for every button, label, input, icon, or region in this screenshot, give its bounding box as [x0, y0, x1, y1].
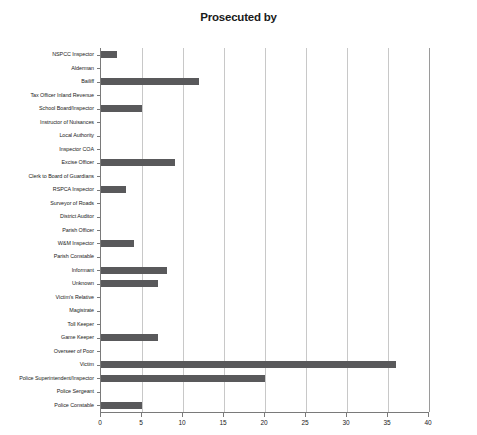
- y-axis-label: Victim: [80, 361, 94, 368]
- bar-row[interactable]: [101, 375, 429, 382]
- bar[interactable]: [101, 186, 126, 193]
- x-axis-label-40: 40: [424, 419, 431, 426]
- bar-row[interactable]: [101, 334, 429, 341]
- bar[interactable]: [101, 51, 117, 58]
- bar-row[interactable]: [101, 307, 429, 314]
- bar-row[interactable]: [101, 361, 429, 368]
- bar-row[interactable]: [101, 200, 429, 207]
- bar-row[interactable]: [101, 119, 429, 126]
- bar-row[interactable]: [101, 253, 429, 260]
- y-axis-label: Alderman: [71, 65, 94, 72]
- x-axis-tick-10: [182, 413, 183, 417]
- y-axis-tick: [97, 68, 100, 69]
- y-axis-tick: [97, 217, 100, 218]
- y-axis-tick: [97, 176, 100, 177]
- y-axis-tick: [97, 365, 100, 366]
- y-axis-tick: [97, 392, 100, 393]
- y-axis-tick: [97, 243, 100, 244]
- x-axis-tick-0: [100, 413, 101, 417]
- y-axis-tick: [97, 324, 100, 325]
- y-axis-label: NSPCC Inspector: [52, 51, 94, 58]
- bar-row[interactable]: [101, 105, 429, 112]
- y-axis-tick: [97, 55, 100, 56]
- bar[interactable]: [101, 361, 396, 368]
- bar-row[interactable]: [101, 240, 429, 247]
- y-axis-tick: [97, 136, 100, 137]
- y-axis-label: School Board/Inspector: [39, 105, 94, 112]
- x-axis-tick-20: [264, 413, 265, 417]
- bar-row[interactable]: [101, 186, 429, 193]
- y-axis-tick: [97, 405, 100, 406]
- bar[interactable]: [101, 78, 199, 85]
- y-axis-label: Game Keeper: [61, 334, 94, 341]
- y-axis-tick: [97, 257, 100, 258]
- y-axis-label: Clerk to Board of Guardians: [29, 173, 94, 180]
- y-axis-tick: [97, 230, 100, 231]
- bar[interactable]: [101, 375, 265, 382]
- bar-row[interactable]: [101, 159, 429, 166]
- y-axis-tick: [97, 190, 100, 191]
- y-axis-label: Overseer of Poor: [54, 348, 94, 355]
- y-axis-label: W&M Inspector: [58, 240, 94, 247]
- bar-row[interactable]: [101, 402, 429, 409]
- y-axis-label: Unknown: [72, 280, 94, 287]
- bar-row[interactable]: [101, 65, 429, 72]
- y-axis-tick: [97, 95, 100, 96]
- y-axis-label: Police Superintendent/Inspector: [19, 375, 94, 382]
- y-axis-label: Parish Officer: [62, 227, 94, 234]
- bar[interactable]: [101, 105, 142, 112]
- bar-chart: Prosecuted by NSPCC InspectorAldermanBai…: [0, 0, 477, 435]
- y-axis-tick: [97, 82, 100, 83]
- y-axis-tick: [97, 311, 100, 312]
- x-axis-label-5: 5: [139, 419, 143, 426]
- bar-row[interactable]: [101, 267, 429, 274]
- x-axis-label-15: 15: [219, 419, 226, 426]
- x-axis-label-35: 35: [383, 419, 390, 426]
- bar[interactable]: [101, 240, 134, 247]
- bar-row[interactable]: [101, 388, 429, 395]
- bar-row[interactable]: [101, 132, 429, 139]
- y-axis-tick: [97, 284, 100, 285]
- y-axis-label: Local Authority: [59, 132, 94, 139]
- y-axis-label: District Auditor: [60, 213, 94, 220]
- y-axis-label: Inspector COA: [59, 146, 94, 153]
- x-axis-label-30: 30: [342, 419, 349, 426]
- bar[interactable]: [101, 402, 142, 409]
- bar-row[interactable]: [101, 348, 429, 355]
- x-axis-tick-5: [141, 413, 142, 417]
- x-axis-label-25: 25: [301, 419, 308, 426]
- y-axis-label: Bailiff: [81, 78, 94, 85]
- y-axis-label: Tax Officer Inland Revenue: [30, 92, 94, 99]
- x-axis-label-20: 20: [260, 419, 267, 426]
- y-axis-tick: [97, 122, 100, 123]
- x-axis-tick-15: [223, 413, 224, 417]
- y-axis-label: Magistrate: [69, 307, 94, 314]
- bar-row[interactable]: [101, 227, 429, 234]
- y-axis-category-labels: NSPCC InspectorAldermanBailiffTax Office…: [0, 48, 97, 412]
- bar[interactable]: [101, 280, 158, 287]
- bar-row[interactable]: [101, 321, 429, 328]
- y-axis-tick: [97, 163, 100, 164]
- x-axis-tick-25: [305, 413, 306, 417]
- y-axis-label: Police Sergeant: [57, 388, 94, 395]
- y-axis-label: Informant: [72, 267, 94, 274]
- bar-series: [101, 48, 429, 412]
- bar[interactable]: [101, 334, 158, 341]
- y-axis-label: Surveyor of Roads: [50, 200, 94, 207]
- bar-row[interactable]: [101, 146, 429, 153]
- bar-row[interactable]: [101, 78, 429, 85]
- bar-row[interactable]: [101, 92, 429, 99]
- y-axis-label: Victim's Relative: [56, 294, 94, 301]
- bar[interactable]: [101, 267, 167, 274]
- bar-row[interactable]: [101, 173, 429, 180]
- bar-row[interactable]: [101, 294, 429, 301]
- y-axis-tick: [97, 297, 100, 298]
- y-axis-tick: [97, 109, 100, 110]
- bar-row[interactable]: [101, 213, 429, 220]
- y-axis-label: Police Constable: [54, 402, 94, 409]
- bar-row[interactable]: [101, 51, 429, 58]
- chart-title: Prosecuted by: [0, 11, 477, 23]
- bar[interactable]: [101, 159, 175, 166]
- bar-row[interactable]: [101, 280, 429, 287]
- x-axis-label-10: 10: [178, 419, 185, 426]
